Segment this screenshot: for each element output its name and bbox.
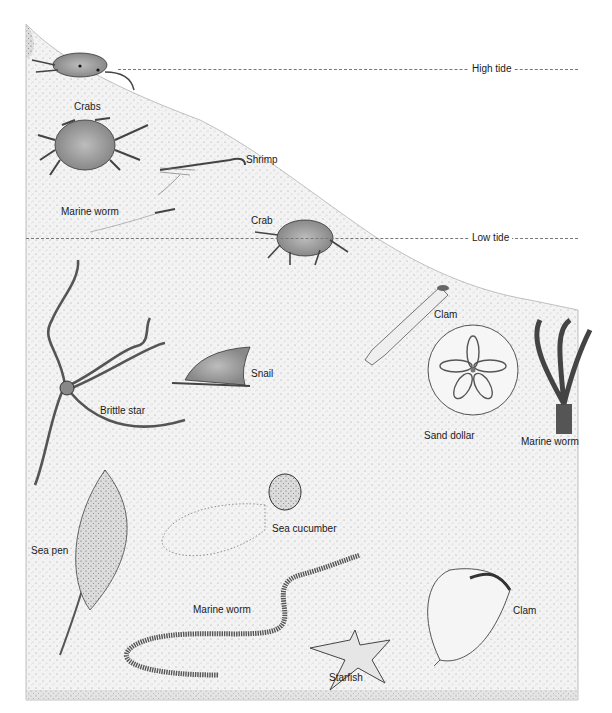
- label-snail: Snail: [251, 368, 273, 380]
- label-crab: Crab: [251, 215, 273, 227]
- label-sea-cucumber: Sea cucumber: [272, 523, 336, 535]
- label-marine-worm-bottom: Marine worm: [193, 604, 251, 616]
- label-sand-dollar: Sand dollar: [424, 430, 475, 442]
- label-clam-tube: Clam: [434, 309, 457, 321]
- label-starfish: Starfish: [329, 672, 363, 684]
- label-marine-worm-top: Marine worm: [61, 206, 119, 218]
- label-crabs: Crabs: [74, 101, 101, 113]
- intertidal-diagram: High tide Low tide Crabs Shrimp Marine w…: [0, 0, 612, 713]
- sand-dollar-icon: [428, 325, 518, 415]
- label-shrimp: Shrimp: [246, 154, 278, 166]
- high-tide-label: High tide: [469, 63, 514, 75]
- label-sea-pen: Sea pen: [31, 545, 68, 557]
- label-marine-worm-tube: Marine worm: [521, 436, 579, 448]
- label-brittle-star: Brittle star: [100, 405, 145, 417]
- low-tide-label: Low tide: [469, 232, 512, 244]
- label-clam-shell: Clam: [513, 605, 536, 617]
